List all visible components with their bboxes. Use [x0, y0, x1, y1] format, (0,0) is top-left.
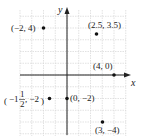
point-neg1.5-neg2 — [48, 97, 52, 101]
x-axis-label: x — [130, 77, 136, 88]
svg-text:): ) — [41, 96, 44, 106]
point-label-neg1.5-neg2: ( −1 1 2 , −2 ) — [4, 89, 44, 109]
point-4-0 — [112, 73, 116, 77]
coordinate-plane: x y (−2, 4) (2.5, 3.5) (4, 0) ( −1 1 2 ,… — [0, 0, 141, 137]
point-label-neg2-4: (−2, 4) — [11, 23, 36, 33]
y-axis-label: y — [57, 4, 63, 15]
x-axis-arrow-icon — [124, 73, 131, 78]
point-label-2.5-3.5: (2.5, 3.5) — [88, 20, 121, 30]
point-neg2-4 — [42, 26, 46, 30]
svg-text:1: 1 — [20, 89, 25, 99]
svg-text:(: ( — [4, 96, 7, 106]
point-0-neg2 — [65, 97, 69, 101]
point-label-0-neg2: (0, −2) — [70, 93, 95, 103]
point-3-neg4 — [101, 120, 105, 124]
point-label-4-0: (4, 0) — [93, 61, 113, 71]
point-label-3-neg4: (3, −4) — [95, 125, 120, 135]
svg-text:, −2: , −2 — [25, 94, 39, 104]
y-axis-arrow-icon — [65, 7, 70, 14]
point-2.5-3.5 — [95, 32, 99, 36]
svg-text:2: 2 — [20, 99, 25, 109]
svg-text:−1: −1 — [9, 94, 19, 104]
